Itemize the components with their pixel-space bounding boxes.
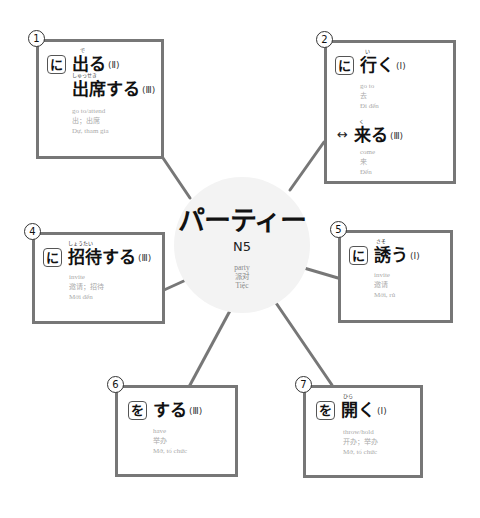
particle-badge: に: [47, 55, 66, 74]
vocab-word: ひら 開く: [341, 400, 375, 420]
card-number-badge: 5: [330, 221, 347, 238]
card-number-badge: 7: [295, 376, 312, 393]
verb-class: (Ⅰ): [377, 402, 387, 420]
connector-2: [290, 142, 324, 190]
verb-class: (Ⅲ): [189, 402, 202, 420]
furigana: く: [359, 118, 364, 124]
verb-class: (Ⅰ): [410, 247, 420, 265]
connector-1: [163, 158, 190, 198]
vocab-card-7: 7 を ひら 開く (Ⅰ) throw/hold 开办；举办 Mở, tổ ch…: [303, 385, 423, 478]
verb-class: (Ⅲ): [142, 81, 155, 99]
vocab-card-1: 1 に で 出る (Ⅱ) しゅっせき 出席する (Ⅲ) go to/attend…: [36, 39, 164, 159]
vocab-card-4: 4 に しょうたい 招待する (Ⅲ) invite 邀请；招待 Mời đến: [32, 232, 165, 324]
antonym-gloss: come 来 Đến: [360, 147, 375, 177]
vocab-card-6: 6 を する (Ⅲ) have 举办 Mở, tổ chức: [115, 385, 238, 477]
vocab-word: する: [153, 400, 187, 420]
translation-gloss: invite 邀请 Mời, rủ: [374, 270, 395, 300]
furigana: しゅっせき: [72, 72, 97, 78]
particle-badge: を: [316, 401, 335, 420]
gloss-chinese: 派对: [174, 272, 310, 281]
jlpt-level-label: N5: [174, 239, 310, 254]
vocab-word: しゅっせき 出席する: [72, 79, 140, 99]
verb-class: (Ⅰ): [396, 57, 406, 75]
furigana: しょうたい: [68, 240, 93, 246]
furigana: さそ: [376, 238, 386, 244]
central-topic-title: パーティー: [174, 199, 310, 238]
vocab-word: さそ 誘う: [374, 245, 408, 265]
central-topic-circle: パーティー N5 party 派对 Tiệc: [174, 177, 310, 313]
verb-class: (Ⅲ): [138, 249, 151, 267]
particle-badge: に: [349, 246, 368, 265]
verb-class: (Ⅱ): [108, 56, 119, 74]
translation-gloss: go to/attend 出；出席 Dự, tham gia: [72, 106, 109, 136]
vocab-word: い 行く: [360, 55, 394, 75]
furigana: で: [80, 47, 85, 53]
gloss-vietnamese: Tiệc: [174, 281, 310, 290]
particle-badge: に: [43, 248, 62, 267]
particle-badge: に: [335, 56, 354, 75]
particle-badge: を: [128, 401, 147, 420]
antonym-word: く 来る: [354, 125, 388, 145]
connector-6: [190, 307, 232, 385]
translation-gloss: have 举办 Mở, tổ chức: [153, 426, 187, 456]
card-number-badge: 1: [28, 30, 45, 47]
card-number-badge: 2: [316, 31, 333, 48]
translation-gloss: throw/hold 开办；举办 Mở, tổ chức: [343, 427, 378, 457]
vocab-word: で 出る: [72, 54, 106, 74]
gloss-english: party: [174, 263, 310, 272]
vocab-word: しょうたい 招待する: [68, 247, 136, 267]
vocab-card-5: 5 に さそ 誘う (Ⅰ) invite 邀请 Mời, rủ: [338, 230, 453, 323]
vocab-card-2: 2 に い 行く (Ⅰ) go to 去 Đi đến ↔ く 来る (Ⅲ) c…: [324, 40, 456, 184]
card-number-badge: 6: [107, 376, 124, 393]
antonym-arrow-icon: ↔: [337, 125, 348, 145]
connector-7: [274, 300, 332, 385]
translation-gloss: invite 邀请；招待 Mời đến: [69, 272, 104, 302]
card-number-badge: 4: [24, 223, 41, 240]
verb-class: (Ⅲ): [390, 127, 403, 145]
translation-gloss: go to 去 Đi đến: [360, 81, 379, 111]
furigana: ひら: [343, 393, 353, 399]
furigana: い: [365, 48, 370, 54]
central-topic-gloss: party 派对 Tiệc: [174, 263, 310, 290]
